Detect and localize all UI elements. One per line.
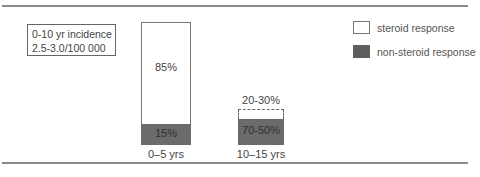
legend-item-steroid: steroid response [353, 21, 455, 34]
bar-1-non-steroid-label: 15% [141, 127, 191, 139]
legend-item-non-steroid: non-steroid response [353, 45, 476, 58]
legend-swatch-dark-icon [353, 45, 370, 58]
legend-swatch-white-icon [353, 21, 370, 34]
bar-1-category-label: 0–5 yrs [131, 148, 201, 160]
bar-2-category-label: 10–15 yrs [226, 148, 296, 160]
bar-1-steroid-label: 85% [141, 61, 191, 73]
bar-2-non-steroid-label: 70-50% [238, 124, 284, 136]
legend-label: steroid response [377, 22, 455, 34]
bar-segment-steroid [238, 109, 284, 119]
bottom-rule [2, 162, 468, 164]
incidence-line-1: 0-10 yr incidence [32, 27, 115, 41]
bar-segment-steroid [141, 22, 191, 125]
bar-2-steroid-label: 20-30% [231, 94, 291, 106]
incidence-box: 0-10 yr incidence 2.5-3.0/100 000 [27, 24, 116, 56]
incidence-line-2: 2.5-3.0/100 000 [32, 41, 115, 55]
top-rule [2, 5, 468, 7]
legend-label: non-steroid response [377, 46, 476, 58]
